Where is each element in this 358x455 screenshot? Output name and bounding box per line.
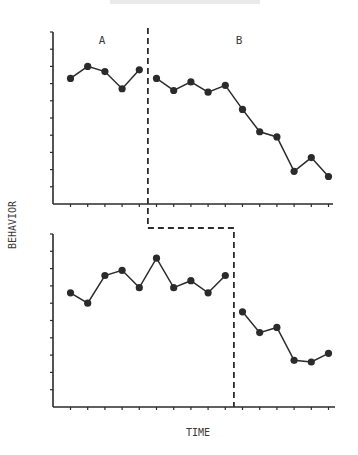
data-point: [239, 106, 246, 113]
data-point: [325, 173, 332, 180]
data-point: [136, 284, 143, 291]
data-point: [67, 75, 74, 82]
data-point: [205, 289, 212, 296]
data-point: [119, 85, 126, 92]
data-point: [222, 272, 229, 279]
series-line-b: [243, 312, 329, 362]
data-point: [256, 128, 263, 135]
data-point: [170, 87, 177, 94]
phase-b-label: B: [236, 34, 243, 47]
data-point: [153, 255, 160, 262]
data-point: [205, 89, 212, 96]
data-point: [256, 329, 263, 336]
bottom-panel: [50, 234, 335, 410]
phase-a-label: A: [99, 34, 106, 47]
data-point: [187, 277, 194, 284]
data-point: [291, 357, 298, 364]
data-point: [101, 272, 108, 279]
data-point: [273, 324, 280, 331]
data-point: [308, 154, 315, 161]
data-point: [291, 168, 298, 175]
top-panel: [50, 32, 333, 207]
data-point: [119, 267, 126, 274]
y-axis-label: BEHAVIOR: [7, 200, 18, 249]
data-point: [187, 78, 194, 85]
x-axis-label: TIME: [186, 427, 210, 438]
data-point: [325, 350, 332, 357]
data-point: [67, 289, 74, 296]
data-point: [222, 82, 229, 89]
series-line-a: [71, 258, 226, 303]
data-point: [153, 75, 160, 82]
series-line-b: [157, 78, 329, 176]
data-point: [308, 358, 315, 365]
data-point: [84, 300, 91, 307]
data-point: [273, 133, 280, 140]
data-point: [239, 308, 246, 315]
data-point: [136, 66, 143, 73]
data-point: [170, 284, 177, 291]
multiple-baseline-chart: A B BEHAVIOR TIME: [0, 0, 358, 455]
data-point: [84, 63, 91, 70]
data-point: [101, 68, 108, 75]
